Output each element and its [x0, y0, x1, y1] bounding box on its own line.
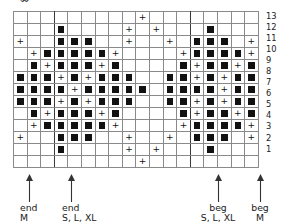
cell-empty [95, 12, 109, 24]
up-arrow-icon [214, 174, 223, 202]
filled-square-icon [180, 98, 187, 105]
cell-filled-square [231, 72, 245, 84]
cell-empty [27, 144, 41, 156]
row-number-label: 7 [265, 77, 284, 88]
cell-plus: + [245, 120, 259, 132]
marker-label-sizes: M [20, 213, 28, 223]
cell-filled-square [14, 72, 28, 84]
cell-empty [204, 12, 218, 24]
filled-square-icon [167, 74, 174, 81]
filled-square-icon [31, 74, 38, 81]
cell-plus: + [163, 36, 177, 48]
cell-plus: + [27, 120, 41, 132]
cell-filled-square [41, 96, 55, 108]
cell-empty [149, 60, 163, 72]
cell-plus: + [122, 144, 136, 156]
cell-filled-square [81, 84, 95, 96]
chart-table: ++++++++++++++++++++++++++++++++++++++++ [13, 11, 259, 168]
chart-row: ++++ [14, 96, 259, 108]
cell-plus: + [122, 36, 136, 48]
cell-empty [163, 156, 177, 168]
cell-empty [149, 12, 163, 24]
cell-filled-square [109, 108, 123, 120]
cell-filled-square [217, 36, 231, 48]
cell-filled-square [81, 132, 95, 144]
plus-icon: + [150, 144, 163, 155]
filled-square-icon [207, 62, 214, 69]
cell-empty [149, 48, 163, 60]
plus-icon: + [245, 36, 258, 47]
filled-square-icon [221, 134, 228, 141]
plus-icon: + [232, 108, 245, 119]
cell-filled-square [27, 108, 41, 120]
plus-icon: + [41, 60, 54, 71]
filled-square-icon [58, 50, 65, 57]
cell-empty [122, 12, 136, 24]
cell-empty [177, 132, 191, 144]
plus-icon: + [136, 156, 149, 167]
up-arrow-icon [256, 174, 265, 202]
cell-empty [231, 144, 245, 156]
cell-plus: + [177, 120, 191, 132]
cell-empty [27, 156, 41, 168]
row-number-label: 12 [265, 22, 284, 33]
cell-filled-square [204, 120, 218, 132]
cell-filled-square [95, 48, 109, 60]
cell-empty [149, 108, 163, 120]
cell-filled-square [68, 108, 82, 120]
cell-filled-square [68, 120, 82, 132]
chart-row: ++ [14, 84, 259, 96]
cell-empty [122, 60, 136, 72]
cell-filled-square [204, 108, 218, 120]
cell-filled-square [54, 120, 68, 132]
cell-filled-square [109, 84, 123, 96]
filled-square-icon [71, 74, 78, 81]
filled-square-icon [126, 74, 133, 81]
cell-empty [109, 156, 123, 168]
filled-square-icon [112, 74, 119, 81]
chart-row: + [14, 156, 259, 168]
cell-filled-square [217, 48, 231, 60]
up-arrow-icon [67, 174, 76, 202]
cell-filled-square [14, 96, 28, 108]
cell-empty [14, 12, 28, 24]
plus-icon: + [191, 96, 204, 107]
filled-square-icon [31, 98, 38, 105]
filled-square-icon [58, 26, 65, 33]
filled-square-icon [99, 98, 106, 105]
cell-empty [149, 156, 163, 168]
filled-square-icon [207, 38, 214, 45]
cell-empty [231, 36, 245, 48]
cell-filled-square [177, 96, 191, 108]
chart-page: ∞ ++++++++++++++++++++++++++++++++++++++… [0, 0, 284, 223]
cell-empty [14, 156, 28, 168]
plus-icon: + [41, 108, 54, 119]
plus-icon: + [14, 36, 27, 47]
cell-plus: + [217, 96, 231, 108]
cell-empty [41, 12, 55, 24]
cell-empty [163, 120, 177, 132]
cell-empty [231, 24, 245, 36]
cell-empty [163, 24, 177, 36]
cell-filled-square [204, 48, 218, 60]
cell-filled-square [231, 48, 245, 60]
plus-icon: + [55, 96, 68, 107]
filled-square-icon [58, 146, 65, 153]
cell-filled-square [245, 60, 259, 72]
cell-plus: + [41, 108, 55, 120]
filled-square-icon [99, 122, 106, 129]
cell-empty [81, 144, 95, 156]
plus-icon: + [150, 24, 163, 35]
filled-square-icon [207, 146, 214, 153]
row-number-label: 13 [265, 11, 284, 22]
cell-empty [163, 108, 177, 120]
stitch-chart-grid: ++++++++++++++++++++++++++++++++++++++++ [13, 11, 259, 168]
cell-empty [54, 12, 68, 24]
cell-filled-square [231, 96, 245, 108]
filled-square-icon [58, 110, 65, 117]
filled-square-icon [207, 134, 214, 141]
chart-row: ++++ [14, 132, 259, 144]
cell-filled-square [95, 120, 109, 132]
cell-plus: + [41, 60, 55, 72]
cell-filled-square [217, 60, 231, 72]
